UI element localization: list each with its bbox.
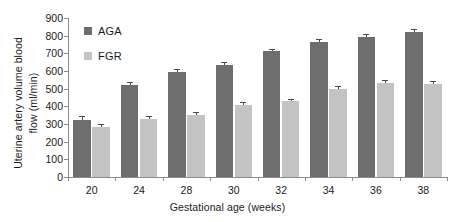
x-axis-title: Gestational age (weeks) (0, 201, 455, 213)
y-tick-label: 400 (45, 100, 63, 112)
y-tick-label: 800 (45, 30, 63, 42)
x-tick-mark (68, 177, 69, 181)
error-cap-aga-38 (411, 29, 417, 30)
bar-aga-36 (358, 37, 376, 177)
bar-fgr-36 (377, 83, 395, 177)
y-axis-title-line2: flow (ml/min) (26, 13, 41, 193)
legend-item-fgr: FGR (84, 47, 122, 64)
y-axis-title-line1: Uterine artery volume blood (11, 13, 26, 193)
legend: AGA FGR (84, 22, 122, 72)
bar-aga-34 (310, 42, 328, 177)
x-tick-mark (258, 177, 259, 181)
error-cap-aga-20 (79, 116, 85, 117)
x-tick-mark (115, 177, 116, 181)
error-bar-fgr-34 (338, 87, 339, 89)
y-tick-label: 300 (45, 118, 63, 130)
bar-group (305, 18, 352, 177)
x-tick-label-38: 38 (417, 184, 429, 196)
error-bar-fgr-24 (149, 117, 150, 119)
error-bar-aga-30 (224, 63, 225, 65)
error-bar-aga-32 (272, 50, 273, 52)
y-tick-label: 600 (45, 65, 63, 77)
bar-group (258, 18, 305, 177)
error-cap-fgr-30 (240, 102, 246, 103)
error-bar-fgr-28 (196, 113, 197, 115)
x-tick-label-36: 36 (370, 184, 382, 196)
x-tick-mark (352, 177, 353, 181)
error-bar-fgr-32 (291, 100, 292, 102)
plot-area: 0100200300400500600700800900 (68, 18, 447, 177)
x-tick-label-34: 34 (323, 184, 335, 196)
error-bar-aga-24 (130, 83, 131, 85)
legend-swatch-icon-fgr (84, 52, 92, 60)
bar-aga-32 (263, 51, 281, 177)
y-tick-label: 0 (57, 171, 63, 183)
bar-group (115, 18, 162, 177)
x-tick-mark (400, 177, 401, 181)
error-cap-aga-30 (221, 62, 227, 63)
error-bar-aga-28 (177, 70, 178, 72)
legend-swatch-icon-aga (84, 27, 92, 35)
error-cap-fgr-38 (430, 81, 436, 82)
error-cap-aga-24 (127, 82, 133, 83)
legend-item-aga: AGA (84, 22, 122, 39)
error-bar-aga-34 (319, 40, 320, 42)
y-tick-label: 900 (45, 12, 63, 24)
error-bar-aga-38 (414, 30, 415, 32)
legend-label-aga: AGA (98, 25, 122, 37)
bar-fgr-38 (424, 84, 442, 177)
error-cap-aga-32 (269, 49, 275, 50)
bar-fgr-32 (282, 101, 300, 177)
bar-group (163, 18, 210, 177)
y-tick-label: 100 (45, 153, 63, 165)
y-tick-label: 200 (45, 136, 63, 148)
bar-chart: Uterine artery volume blood flow (ml/min… (0, 0, 455, 222)
bar-fgr-28 (187, 115, 205, 177)
bar-aga-38 (405, 32, 423, 177)
error-cap-aga-28 (174, 69, 180, 70)
error-bar-fgr-20 (101, 125, 102, 127)
x-tick-mark (210, 177, 211, 181)
x-tick-label-24: 24 (133, 184, 145, 196)
error-bar-fgr-30 (243, 103, 244, 105)
bar-fgr-24 (140, 119, 158, 177)
error-cap-fgr-28 (193, 112, 199, 113)
x-tick-mark-end (447, 177, 448, 181)
x-tick-label-32: 32 (275, 184, 287, 196)
legend-label-fgr: FGR (98, 50, 122, 62)
bar-fgr-20 (92, 127, 110, 177)
error-cap-fgr-36 (382, 80, 388, 81)
y-axis-title: Uterine artery volume blood flow (ml/min… (11, 13, 45, 193)
error-bar-fgr-36 (385, 81, 386, 83)
bar-fgr-30 (235, 105, 253, 177)
error-cap-fgr-32 (288, 99, 294, 100)
error-cap-aga-36 (363, 34, 369, 35)
y-tick-label: 700 (45, 47, 63, 59)
bar-group (210, 18, 257, 177)
bar-aga-28 (168, 72, 186, 177)
bar-aga-20 (73, 120, 91, 177)
error-bar-aga-36 (366, 35, 367, 37)
error-cap-fgr-20 (98, 124, 104, 125)
bar-aga-30 (216, 65, 234, 177)
y-tick-label: 500 (45, 83, 63, 95)
error-bar-aga-20 (82, 117, 83, 119)
bar-aga-24 (121, 85, 139, 177)
error-cap-fgr-34 (335, 86, 341, 87)
x-tick-label-20: 20 (86, 184, 98, 196)
bar-fgr-34 (329, 89, 347, 177)
bar-group (400, 18, 447, 177)
error-cap-aga-34 (316, 39, 322, 40)
error-bar-fgr-38 (433, 82, 434, 84)
bar-group (352, 18, 399, 177)
x-tick-mark (163, 177, 164, 181)
x-tick-label-28: 28 (181, 184, 193, 196)
x-tick-label-30: 30 (228, 184, 240, 196)
x-tick-mark (305, 177, 306, 181)
error-cap-fgr-24 (146, 116, 152, 117)
